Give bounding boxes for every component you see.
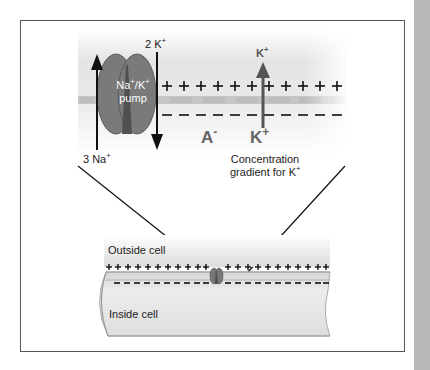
- pump-label: Na+/K+ pump: [112, 79, 154, 105]
- k-top-text: K: [256, 47, 264, 59]
- anion-label: A-: [201, 128, 217, 148]
- pump-label-word: pump: [119, 92, 147, 104]
- k-top-sup: +: [264, 45, 269, 54]
- gradient-caption-sup: +: [296, 164, 301, 173]
- na-efflux-sup: +: [106, 151, 111, 160]
- anion-text: A: [201, 128, 213, 147]
- diagram-canvas: [0, 0, 430, 370]
- gradient-caption-line1: Concentration: [231, 153, 300, 165]
- inside-cell-label: Inside cell: [109, 308, 158, 320]
- k-bottom-sup: +: [262, 125, 269, 139]
- k-gradient-bottom-label: K+: [250, 128, 269, 148]
- gradient-caption: Concentration gradient for K+: [230, 153, 300, 179]
- small-pump-icon: [210, 268, 223, 284]
- na-efflux-count: 3 Na: [83, 153, 106, 165]
- pump-label-k: /K: [135, 79, 145, 91]
- pump-label-na: Na: [116, 79, 130, 91]
- pump-label-k-sup: +: [145, 77, 150, 86]
- k-gradient-top-label: K+: [256, 47, 268, 59]
- anion-sup: -: [213, 125, 217, 139]
- k-bottom-text: K: [250, 128, 262, 147]
- outside-cell-label: Outside cell: [108, 244, 165, 256]
- gradient-caption-line2: gradient for K: [230, 166, 296, 178]
- k-influx-count: 2 K: [145, 38, 162, 50]
- na-efflux-label: 3 Na+: [83, 153, 111, 165]
- k-influx-sup: +: [162, 36, 167, 45]
- k-influx-label: 2 K+: [145, 38, 166, 50]
